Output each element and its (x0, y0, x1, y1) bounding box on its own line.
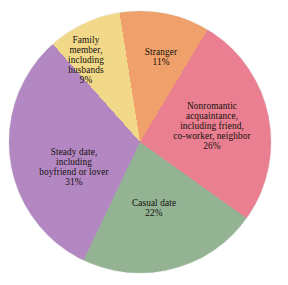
slice-label-steady-line1: Steady date, (51, 147, 98, 157)
slice-label-stranger: Stranger 11% (128, 47, 194, 67)
slice-label-casual-line1: Casual date (132, 198, 176, 208)
slice-label-family-line2: member, (69, 45, 102, 55)
slice-label-steady-date: Steady date, including boyfriend or love… (19, 147, 129, 187)
slice-label-nonromantic-line4: co-worker, neighbor (173, 131, 250, 141)
slice-label-steady-line3: boyfriend or lover (39, 167, 108, 177)
slice-label-nonromantic-line1: Nonromantic (187, 101, 237, 111)
slice-label-stranger-percent: 11% (128, 57, 194, 67)
slice-label-nonromantic-line2: acquaintance, (186, 111, 238, 121)
slice-label-family-member: Family member, including husbands 9% (56, 35, 116, 85)
slice-label-steady-percent: 31% (19, 177, 129, 187)
slice-label-casual-percent: 22% (117, 208, 191, 218)
slice-label-nonromantic-line3: including friend, (180, 121, 244, 131)
pie-chart-figure: Stranger 11% Nonromantic acquaintance, i… (0, 0, 288, 285)
slice-label-nonromantic-acquaintance: Nonromantic acquaintance, including frie… (158, 101, 266, 151)
slice-label-nonromantic-percent: 26% (158, 141, 266, 151)
slice-label-family-percent: 9% (56, 75, 116, 85)
slice-label-steady-line2: including (56, 157, 92, 167)
slice-label-family-line1: Family (73, 35, 100, 45)
slice-label-family-line3: including (68, 55, 104, 65)
slice-label-family-line4: husbands (68, 65, 103, 75)
slice-label-stranger-line1: Stranger (145, 47, 177, 57)
slice-label-casual-date: Casual date 22% (117, 198, 191, 218)
